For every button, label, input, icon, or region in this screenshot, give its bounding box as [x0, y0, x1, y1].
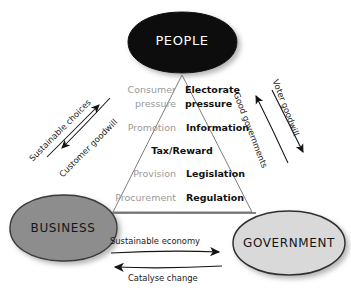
node-business-shape: [10, 195, 117, 261]
node-government-shape: [233, 211, 345, 275]
matrix-center-tax-reward: Tax/Reward: [122, 145, 242, 156]
matrix-right-information: Information: [186, 122, 286, 133]
matrix-right-regulation: Regulation: [186, 192, 286, 203]
matrix-right-electorate: Electorate: [185, 84, 281, 95]
matrix-left-provision: Provision: [76, 168, 176, 179]
node-people-shape: [128, 12, 237, 73]
arrow-catalyse-change: [115, 266, 222, 268]
diagram-canvas: PEOPLE BUSINESS GOVERNMENT Consumer pres…: [0, 0, 351, 296]
matrix-left-procurement: Procurement: [64, 192, 176, 203]
matrix-left-consumer-pressure: pressure: [86, 98, 176, 109]
matrix-right-legislation: Legislation: [186, 168, 286, 179]
matrix-right-electorate-pressure: pressure: [185, 98, 281, 109]
matrix-left-consumer: Consumer: [86, 84, 176, 95]
matrix-left-promotion: Promotion: [80, 122, 176, 133]
arrow-sustainable-economy: [111, 251, 219, 253]
